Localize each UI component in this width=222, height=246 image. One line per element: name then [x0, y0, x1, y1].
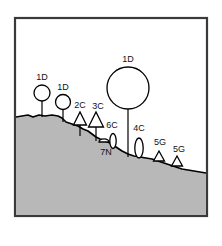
- circle-symbol: [107, 67, 149, 109]
- circle-symbol: [34, 85, 50, 101]
- dome-symbol: [99, 139, 109, 142]
- symbol-label: 1D: [57, 82, 69, 92]
- symbol-label: 4C: [133, 123, 145, 133]
- symbol-label: 5G: [154, 137, 166, 147]
- symbol-label: 2C: [74, 100, 86, 110]
- hillside-cross-section-diagram: 1D1D2C3C1D6C7N4C5G5G: [0, 0, 222, 246]
- lens-symbol: [135, 138, 143, 158]
- figure-canvas: 1D1D2C3C1D6C7N4C5G5G: [0, 0, 222, 246]
- symbol-label: 6C: [106, 120, 118, 130]
- symbol-label: 1D: [122, 54, 134, 64]
- symbol-label: 1D: [36, 72, 48, 82]
- circle-symbol: [56, 95, 71, 110]
- symbol-label: 5G: [173, 144, 185, 154]
- symbol-label: 7N: [100, 147, 112, 157]
- symbol-label: 3C: [92, 101, 104, 111]
